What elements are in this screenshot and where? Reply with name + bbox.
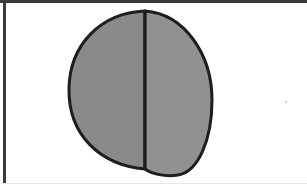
split-oval-figure [0,0,307,186]
right-half [145,11,212,176]
scan-speck [285,101,287,103]
left-half [69,11,145,169]
diagram-frame [0,0,307,186]
